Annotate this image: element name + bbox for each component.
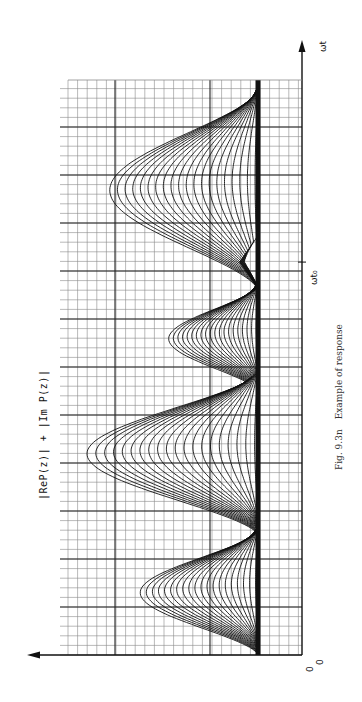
y-axis-label: |ReP(z)| + |Im P(z)|	[38, 370, 49, 500]
origin-label-2: 0	[315, 659, 325, 665]
origin-label: 0	[305, 666, 315, 672]
axes	[27, 40, 306, 659]
x-axis-label: ωt	[318, 41, 328, 52]
caption-text: Example of response	[334, 324, 344, 419]
marker-label: ωt₀	[309, 270, 319, 285]
caption-number: Fig. 9.3n	[334, 429, 344, 470]
response-figure	[0, 0, 362, 702]
figure-caption: Fig. 9.3nExample of response	[334, 324, 344, 470]
